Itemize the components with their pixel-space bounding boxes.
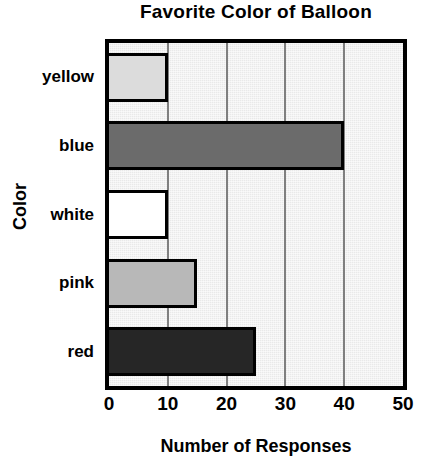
bar-blue (109, 121, 344, 170)
bar-white (109, 190, 168, 239)
chart-title: Favorite Color of Balloon (105, 1, 407, 23)
y-tick-label-blue: blue (0, 136, 94, 156)
x-tick-label-40: 40 (314, 393, 374, 415)
plot-area (105, 39, 407, 390)
bar-pink (109, 259, 197, 308)
bar-chart: Favorite Color of Balloon Color yellowbl… (0, 0, 425, 464)
bar-yellow (109, 53, 168, 102)
x-tick-label-50: 50 (373, 393, 425, 415)
x-axis-tick-labels: 01020304050 (105, 393, 407, 419)
x-tick-label-30: 30 (255, 393, 315, 415)
y-tick-label-red: red (0, 342, 94, 362)
y-tick-label-pink: pink (0, 273, 94, 293)
x-axis-title: Number of Responses (105, 436, 407, 457)
y-axis-tick-labels: yellowbluewhitepinkred (0, 39, 100, 390)
plot-inner (109, 43, 403, 386)
x-tick-label-0: 0 (79, 393, 139, 415)
x-tick-label-20: 20 (197, 393, 257, 415)
gridline (343, 43, 345, 386)
y-tick-label-yellow: yellow (0, 67, 94, 87)
gridline (284, 43, 286, 386)
y-tick-label-white: white (0, 205, 94, 225)
x-tick-label-10: 10 (138, 393, 198, 415)
bar-red (109, 327, 256, 376)
